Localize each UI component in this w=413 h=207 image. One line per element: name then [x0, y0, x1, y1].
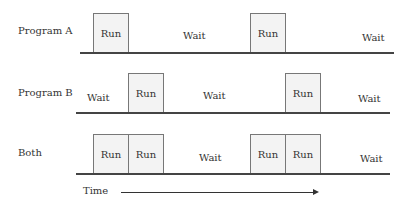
- run-block: Run: [285, 134, 321, 174]
- row-label-program-a: Program A: [18, 25, 73, 36]
- run-block: Run: [250, 13, 286, 53]
- run-block: Run: [285, 73, 321, 113]
- run-block: Run: [128, 134, 164, 174]
- run-block: Run: [128, 73, 164, 113]
- time-arrow-line: [121, 192, 313, 193]
- wait-label: Wait: [87, 92, 110, 103]
- row-label-both: Both: [18, 147, 42, 158]
- wait-label: Wait: [362, 32, 385, 43]
- wait-label: Wait: [360, 153, 383, 164]
- wait-label: Wait: [358, 93, 381, 104]
- row-label-program-b: Program B: [18, 87, 73, 98]
- wait-label: Wait: [203, 90, 226, 101]
- wait-label: Wait: [199, 152, 222, 163]
- timeline-b: [76, 112, 390, 114]
- timeline-a: [80, 52, 394, 54]
- arrow-right-icon: [313, 189, 319, 195]
- wait-label: Wait: [183, 30, 206, 41]
- run-block: Run: [93, 13, 129, 53]
- timeline-both: [76, 173, 390, 175]
- time-axis-label: Time: [83, 185, 108, 196]
- run-block: Run: [93, 134, 129, 174]
- run-block: Run: [250, 134, 286, 174]
